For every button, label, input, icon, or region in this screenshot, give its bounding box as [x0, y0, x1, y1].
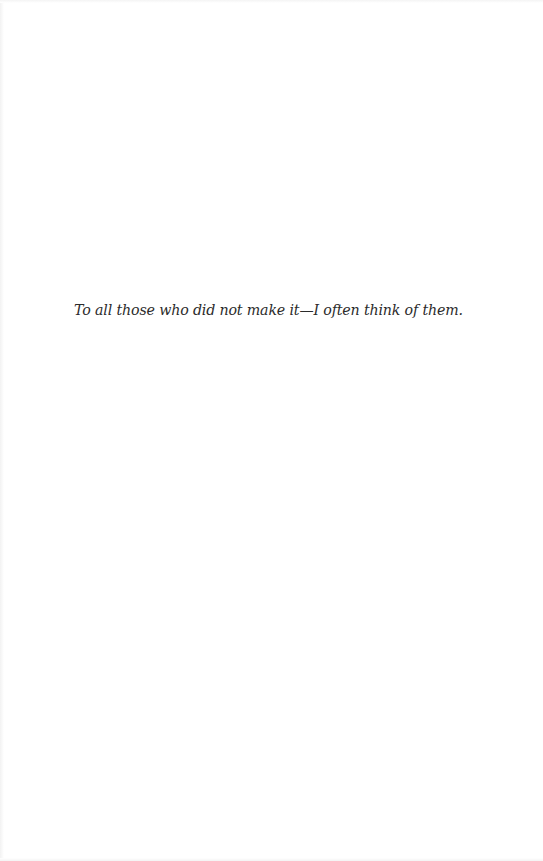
scan-edge-shadow: [0, 0, 4, 861]
book-page: To all those who did not make it—I often…: [0, 0, 543, 861]
dedication-text: To all those who did not make it—I often…: [0, 301, 537, 319]
scan-edge-shadow-top: [0, 0, 543, 3]
